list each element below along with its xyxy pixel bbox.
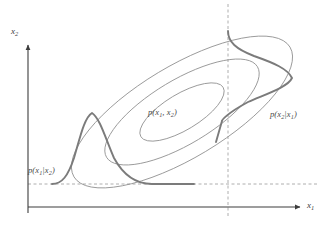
conditional-x1-label: p(x1|x2) bbox=[28, 166, 55, 175]
cond-x2-label-sub1: 2 bbox=[281, 113, 284, 120]
joint-density-label: p(x1, x2) bbox=[148, 108, 177, 117]
y-axis-label-sub: 2 bbox=[15, 30, 18, 37]
y-axis-label: x2 bbox=[11, 27, 18, 36]
x-axis-label-sub: 1 bbox=[311, 204, 314, 211]
cond-x2-label-prefix: p(x bbox=[270, 109, 281, 119]
cond-x2-label-suffix: ) bbox=[294, 109, 297, 119]
joint-label-mid: , x bbox=[162, 107, 170, 117]
cond-x1-label-suffix: ) bbox=[52, 165, 55, 175]
cond-x1-label-sub1: 1 bbox=[39, 169, 42, 176]
x-axis-label: x1 bbox=[307, 201, 314, 210]
p-x1-given-x2-curve bbox=[52, 113, 194, 184]
conditional-x2-label: p(x2|x1) bbox=[270, 110, 297, 119]
joint-label-prefix: p(x bbox=[148, 107, 159, 117]
cond-x1-label-mid: |x bbox=[42, 165, 48, 175]
figure-root: x2 x1 p(x1, x2) p(x1|x2) p(x2|x1) bbox=[0, 0, 323, 227]
cond-x2-label-sub2: 1 bbox=[291, 113, 294, 120]
cond-x1-label-sub2: 2 bbox=[49, 169, 52, 176]
joint-label-suffix: ) bbox=[174, 107, 177, 117]
cond-x2-label-mid: |x bbox=[284, 109, 290, 119]
joint-label-sub1: 1 bbox=[159, 111, 162, 118]
cond-x1-label-prefix: p(x bbox=[28, 165, 39, 175]
joint-label-sub2: 2 bbox=[171, 111, 174, 118]
